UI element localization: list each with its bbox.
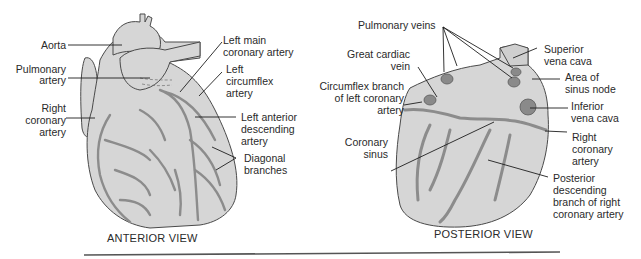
heart-illustration xyxy=(0,0,641,259)
label-svc-line2: vena cava xyxy=(544,55,592,67)
label-left-circumflex-line2: circumflex xyxy=(226,75,273,87)
label-left-main-line1: Left main xyxy=(223,34,266,46)
label-pda-line3: branch of right xyxy=(553,196,620,208)
label-coronary-sinus-line2: sinus xyxy=(330,148,388,160)
label-lad-line1: Left anterior xyxy=(241,111,297,123)
label-rca-line3: artery xyxy=(572,155,599,167)
pulmonary-vein-2 xyxy=(511,68,521,76)
label-sinus-node-line1: Area of xyxy=(565,71,599,83)
label-rca-line2: coronary xyxy=(572,143,613,155)
label-circumflex-line2: of left coronary xyxy=(300,92,404,104)
label-pda-line2: descending xyxy=(553,184,607,196)
label-circumflex-line3: artery xyxy=(300,104,404,116)
inferior-vena-cava-opening xyxy=(520,99,536,115)
caption-anterior-view: ANTERIOR VIEW xyxy=(107,232,198,244)
label-lad-line2: descending xyxy=(241,123,295,135)
pulmonary-vein-3 xyxy=(508,77,520,87)
label-sinus-node-line2: sinus node xyxy=(565,83,616,95)
label-right-coronary-line2: coronary xyxy=(6,114,66,126)
label-ivc-line1: Inferior xyxy=(571,100,604,112)
bottom-rule xyxy=(84,252,560,255)
label-diagonal-line1: Diagonal xyxy=(244,152,285,164)
pulmonary-vein-1 xyxy=(441,74,453,84)
label-right-coronary-line3: artery xyxy=(6,126,66,138)
label-lad-line3: artery xyxy=(241,135,268,147)
label-svc-line1: Superior xyxy=(544,43,584,55)
caption-posterior-view: POSTERIOR VIEW xyxy=(434,228,533,240)
label-pda-line1: Posterior xyxy=(553,172,595,184)
label-ivc-line2: vena cava xyxy=(571,112,619,124)
label-pda-line4: coronary artery xyxy=(553,208,624,220)
label-great-cardiac-line1: Great cardiac xyxy=(330,48,410,60)
label-right-coronary-line1: Right xyxy=(6,102,66,114)
label-coronary-sinus-line1: Coronary xyxy=(330,136,388,148)
label-pulmonary-artery-line2: artery xyxy=(6,74,66,86)
label-diagonal-line2: branches xyxy=(244,164,287,176)
label-aorta: Aorta xyxy=(20,39,66,51)
great-cardiac-vein xyxy=(424,95,436,105)
label-circumflex-line1: Circumflex branch xyxy=(300,80,404,92)
label-great-cardiac-line2: vein xyxy=(330,60,410,72)
label-left-circumflex-line1: Left xyxy=(226,63,244,75)
anterior-heart xyxy=(81,14,237,228)
label-left-main-line2: coronary artery xyxy=(223,46,294,58)
label-rca-line1: Right xyxy=(572,131,597,143)
label-pulmonary-veins: Pulmonary veins xyxy=(358,19,436,31)
label-left-circumflex-line3: artery xyxy=(226,87,253,99)
